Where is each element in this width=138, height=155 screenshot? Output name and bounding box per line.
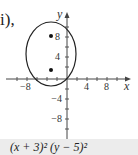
y-axis-arrow-icon <box>65 12 70 18</box>
x-tick-label: 8 <box>104 81 109 92</box>
equation-box: (x + 3)² (y − 5)² <box>0 139 138 155</box>
focus-point <box>49 34 53 38</box>
y-tick-label: 4 <box>55 51 60 62</box>
ellipse-curve <box>26 22 76 86</box>
x-tick-label: 4 <box>84 81 89 92</box>
y-tick-label: −8 <box>51 113 62 124</box>
y-tick-label: −4 <box>51 93 62 104</box>
y-axis-label: y <box>56 7 63 21</box>
x-tick-label: −8 <box>20 81 31 92</box>
ellipse-equation: (x + 3)² (y − 5)² <box>10 140 87 155</box>
y-tick-label: 8 <box>55 31 60 42</box>
x-axis-label: x <box>123 79 130 93</box>
focus-point <box>49 68 53 72</box>
ellipse-graph: −8 4 8 8 4 −4 −8 x y <box>0 0 138 140</box>
